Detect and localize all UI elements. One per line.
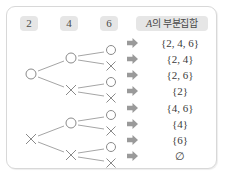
exclude-cross-icon bbox=[26, 134, 36, 144]
include-circle-icon bbox=[107, 78, 116, 87]
subset-result: {6} bbox=[145, 134, 215, 146]
exclude-cross-icon bbox=[107, 127, 116, 136]
implies-arrow-icon bbox=[127, 135, 138, 145]
tree-branch bbox=[38, 142, 64, 152]
subset-result: {4} bbox=[145, 118, 215, 130]
exclude-cross-icon bbox=[66, 85, 76, 95]
implies-arrow-icon bbox=[127, 54, 138, 64]
include-circle-icon bbox=[107, 111, 116, 120]
tree-branch bbox=[78, 157, 104, 161]
implies-arrow-icon bbox=[127, 119, 138, 129]
tree-branch bbox=[78, 117, 104, 121]
exclude-cross-icon bbox=[107, 159, 116, 168]
subset-result: {2, 4} bbox=[145, 53, 215, 65]
tree-branch bbox=[38, 77, 64, 87]
include-circle-icon bbox=[66, 53, 76, 63]
exclude-cross-icon bbox=[107, 62, 116, 71]
subset-result: {2, 4, 6} bbox=[145, 37, 215, 49]
diagram-card: 2 4 6 A의 부분집합 {2, 4, 6} {2, 4} {2, 6} {2… bbox=[6, 6, 217, 169]
tree-branch bbox=[78, 52, 104, 56]
exclude-cross-icon bbox=[107, 94, 116, 103]
tree-branch bbox=[78, 92, 104, 96]
implies-arrow-icon bbox=[127, 38, 138, 48]
implies-arrow-icon bbox=[127, 103, 138, 113]
include-circle-icon bbox=[107, 143, 116, 152]
include-circle-icon bbox=[107, 46, 116, 55]
tree-branch bbox=[78, 125, 104, 129]
subset-result: ∅ bbox=[145, 150, 215, 163]
include-circle-icon bbox=[66, 118, 76, 128]
implies-arrow-icon bbox=[127, 70, 138, 80]
exclude-cross-icon bbox=[66, 150, 76, 160]
tree-branch bbox=[78, 84, 104, 88]
implies-arrow-icon bbox=[127, 86, 138, 96]
tree-branch bbox=[78, 60, 104, 64]
subset-result: {2} bbox=[145, 85, 215, 97]
tree-branch bbox=[38, 61, 64, 71]
subset-result: {4, 6} bbox=[145, 102, 215, 114]
tree-branch bbox=[38, 126, 64, 136]
implies-arrow-icon bbox=[127, 151, 138, 161]
subset-result: {2, 6} bbox=[145, 69, 215, 81]
include-circle-icon bbox=[26, 69, 36, 79]
tree-branch bbox=[78, 149, 104, 153]
